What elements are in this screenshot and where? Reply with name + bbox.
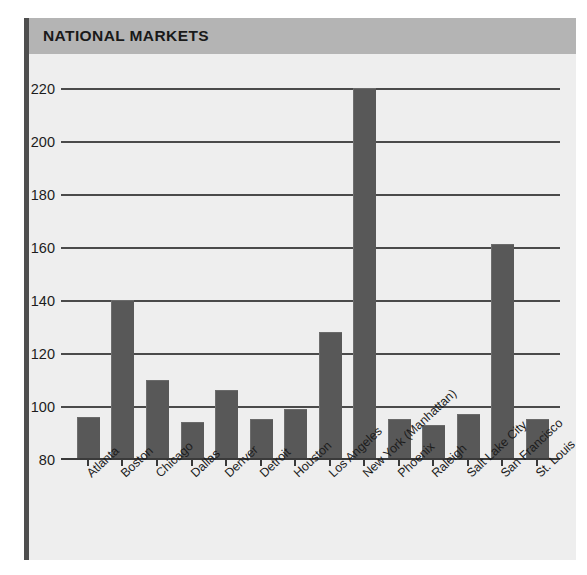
bar-atlanta[interactable]: [77, 417, 100, 458]
plot-wrapper: 80100120140160180200220 AtlantaBostonChi…: [24, 18, 576, 560]
plot-area: [61, 89, 560, 460]
y-tick-label: 100: [31, 399, 55, 415]
y-tick-label: 140: [31, 293, 55, 309]
bar-boston[interactable]: [111, 300, 134, 458]
y-tick-label: 180: [31, 187, 55, 203]
bar-new-york-manhattan[interactable]: [353, 88, 376, 458]
y-tick-label: 160: [31, 240, 55, 256]
y-tick-label: 200: [31, 134, 55, 150]
y-axis-labels: 80100120140160180200220: [24, 89, 55, 460]
y-tick-label: 80: [39, 452, 55, 468]
bar-denver[interactable]: [215, 390, 238, 458]
bar-series: [61, 89, 560, 458]
y-tick-label: 120: [31, 346, 55, 362]
y-tick-label: 220: [31, 81, 55, 97]
x-axis-labels: AtlantaBostonChicagoDallasDenverDetroitH…: [61, 470, 560, 560]
bar-los-angeles[interactable]: [319, 332, 342, 458]
